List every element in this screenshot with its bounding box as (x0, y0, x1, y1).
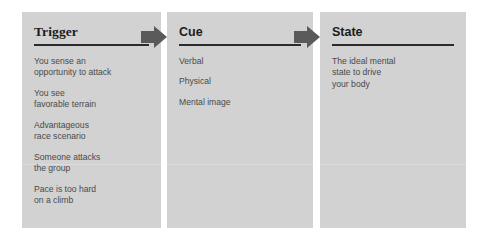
flow-diagram: Trigger You sense an opportunity to atta… (0, 0, 484, 245)
list-item: Someone attacks the group (34, 152, 149, 175)
right-arrow-icon (141, 26, 167, 48)
column-state: State The ideal mental state to drive yo… (320, 12, 466, 228)
list-item: Verbal (179, 56, 301, 68)
column-trigger-header-rule (34, 44, 149, 46)
list-item: Pace is too hard on a climb (34, 184, 149, 207)
list-item: Mental image (179, 97, 301, 109)
list-item: Physical (179, 76, 301, 88)
column-trigger-header: Trigger (34, 12, 149, 40)
list-item: Advantageous race scenario (34, 120, 149, 143)
right-arrow-icon (294, 26, 320, 48)
column-cue: Cue Verbal Physical Mental image (167, 12, 313, 228)
list-item: You sense an opportunity to attack (34, 56, 149, 79)
column-state-header-rule (332, 44, 454, 46)
column-cue-header-rule (179, 44, 301, 46)
list-item: The ideal mental state to drive your bod… (332, 56, 454, 91)
list-item: You see favorable terrain (34, 88, 149, 111)
column-cue-content: Cue Verbal Physical Mental image (167, 12, 313, 228)
column-cue-header: Cue (179, 12, 301, 40)
column-state-header: State (332, 12, 454, 40)
column-state-content: State The ideal mental state to drive yo… (320, 12, 466, 228)
